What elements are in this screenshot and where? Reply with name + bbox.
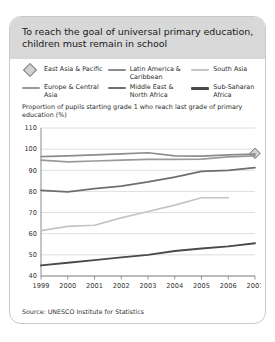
legend-item-sub-saharan-africa[interactable]: Sub-Saharan Africa xyxy=(191,83,257,99)
y-axis-tick-label: 70 xyxy=(29,208,37,216)
legend-row: East Asia & Pacific Latin America & Cari… xyxy=(22,65,257,81)
line-swatch-icon xyxy=(191,83,210,94)
y-axis-tick-label: 110 xyxy=(24,124,37,132)
series-line xyxy=(41,155,255,161)
line-swatch-icon xyxy=(22,83,41,94)
line-swatch-icon xyxy=(108,65,127,76)
legend-item-east-asia-pacific[interactable]: East Asia & Pacific xyxy=(22,65,108,81)
chart-card: To reach the goal of universal primary e… xyxy=(9,16,266,324)
x-axis-tick-label: 2004 xyxy=(166,281,183,289)
chart-legend: East Asia & Pacific Latin America & Cari… xyxy=(10,59,265,103)
x-axis-tick-label: 2003 xyxy=(140,281,157,289)
y-axis-tick-label: 100 xyxy=(24,145,37,153)
y-axis-tick-label: 60 xyxy=(29,230,37,238)
legend-row: Europe & Central Asia Middle East & Nort… xyxy=(22,83,257,99)
y-axis-tick-label: 40 xyxy=(29,272,37,280)
legend-label: South Asia xyxy=(213,65,247,74)
x-axis-tick-label: 2000 xyxy=(59,281,76,289)
y-axis-tick-label: 50 xyxy=(29,251,37,259)
source-note: Source: UNESCO Institute for Statistics xyxy=(22,308,144,315)
series-line xyxy=(41,167,255,191)
page-title: To reach the goal of universal primary e… xyxy=(22,26,254,50)
x-axis-tick-label: 2001 xyxy=(86,281,103,289)
x-axis-tick-label: 2006 xyxy=(220,281,237,289)
series-line xyxy=(41,152,255,156)
series-line xyxy=(41,243,255,265)
chart-header: To reach the goal of universal primary e… xyxy=(10,17,265,59)
legend-label: East Asia & Pacific xyxy=(44,65,103,74)
line-chart-svg: 4050607080901001101999200020012002200320… xyxy=(14,122,261,304)
legend-item-latin-america-caribbean[interactable]: Latin America & Caribbean xyxy=(108,65,192,81)
x-axis-tick-label: 2002 xyxy=(113,281,130,289)
x-axis-tick-label: 1999 xyxy=(33,281,50,289)
diamond-marker-icon xyxy=(22,65,41,76)
legend-label: Middle East & North Africa xyxy=(130,83,192,99)
legend-item-middle-east-north-africa[interactable]: Middle East & North Africa xyxy=(108,83,192,99)
series-line xyxy=(41,197,228,230)
axis-caption: Proportion of pupils starting grade 1 wh… xyxy=(10,103,265,119)
x-axis-tick-label: 2005 xyxy=(193,281,210,289)
y-axis-tick-label: 90 xyxy=(29,166,37,174)
legend-item-europe-central-asia[interactable]: Europe & Central Asia xyxy=(22,83,108,99)
line-swatch-icon xyxy=(108,83,127,94)
x-axis-tick-label: 2007 xyxy=(247,281,261,289)
y-axis-tick-label: 80 xyxy=(29,187,37,195)
line-swatch-icon xyxy=(191,65,210,76)
legend-label: Latin America & Caribbean xyxy=(130,65,192,81)
legend-item-south-asia[interactable]: South Asia xyxy=(191,65,257,81)
chart-plot-area: 4050607080901001101999200020012002200320… xyxy=(14,122,259,304)
legend-label: Sub-Saharan Africa xyxy=(213,83,257,99)
legend-label: Europe & Central Asia xyxy=(44,83,108,99)
